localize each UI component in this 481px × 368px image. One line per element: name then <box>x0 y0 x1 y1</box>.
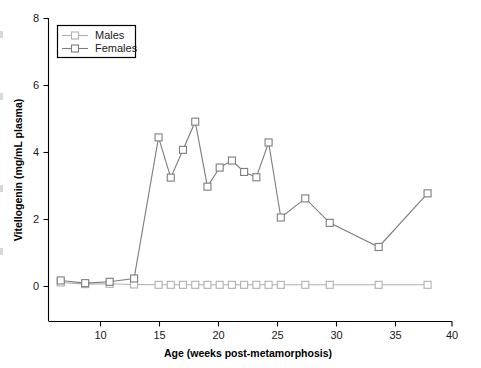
data-point <box>204 281 211 288</box>
x-tick-label-40: 40 <box>446 329 458 341</box>
edge-artifact <box>0 185 3 192</box>
edge-artifact <box>0 31 3 38</box>
data-point <box>241 168 248 175</box>
data-point <box>192 281 199 288</box>
data-point <box>302 281 309 288</box>
x-tick-label-25: 25 <box>271 329 283 341</box>
x-axis: 10 15 20 25 30 35 40 <box>49 322 459 342</box>
data-point <box>155 134 162 141</box>
y-axis: 8 6 4 2 0 <box>33 12 49 321</box>
y-tick-label-4: 4 <box>33 146 39 158</box>
data-point <box>277 281 284 288</box>
y-axis-title: Vitellogenin (mg/mL plasma) <box>12 99 24 242</box>
data-point <box>241 281 248 288</box>
data-point <box>265 139 272 146</box>
data-point <box>155 281 162 288</box>
x-axis-title: Age (weeks post-metamorphosis) <box>164 347 332 359</box>
data-point <box>57 277 64 284</box>
data-point <box>228 157 235 164</box>
x-tick-label-30: 30 <box>330 329 342 341</box>
data-point <box>180 146 187 153</box>
data-point <box>167 174 174 181</box>
data-point <box>265 281 272 288</box>
data-point <box>216 164 223 171</box>
data-point <box>302 195 309 202</box>
data-point <box>180 281 187 288</box>
data-point <box>253 174 260 181</box>
legend: Males Females <box>58 26 138 58</box>
data-point <box>424 281 431 288</box>
data-point <box>326 281 333 288</box>
data-point <box>192 118 199 125</box>
data-point <box>375 243 382 250</box>
chart-figure: 8 6 4 2 0 10 15 20 25 30 35 40 Age (week… <box>0 0 481 368</box>
x-tick-label-35: 35 <box>389 329 401 341</box>
y-tick-label-0: 0 <box>33 280 39 292</box>
legend-label-females: Females <box>95 42 138 54</box>
data-point <box>326 219 333 226</box>
data-point <box>228 281 235 288</box>
data-point <box>167 281 174 288</box>
edge-artifact <box>0 248 3 255</box>
data-point <box>82 280 89 287</box>
x-tick-label-15: 15 <box>153 329 165 341</box>
data-point <box>131 275 138 282</box>
series-layer <box>57 118 431 288</box>
legend-marker-females <box>72 45 79 52</box>
y-tick-label-2: 2 <box>33 213 39 225</box>
data-point <box>216 281 223 288</box>
y-tick-label-8: 8 <box>33 12 39 24</box>
data-point <box>375 281 382 288</box>
edge-artifact <box>0 93 3 100</box>
data-point <box>204 183 211 190</box>
legend-label-males: Males <box>95 29 125 41</box>
data-point <box>106 278 113 285</box>
series-line-females <box>61 122 428 283</box>
x-tick-label-20: 20 <box>212 329 224 341</box>
data-point <box>253 281 260 288</box>
legend-marker-males <box>72 32 79 39</box>
vitellogenin-line-chart: 8 6 4 2 0 10 15 20 25 30 35 40 Age (week… <box>0 0 481 368</box>
data-point <box>277 214 284 221</box>
data-point <box>424 190 431 197</box>
x-tick-label-10: 10 <box>94 329 106 341</box>
y-tick-label-6: 6 <box>33 79 39 91</box>
series-females <box>57 118 431 286</box>
